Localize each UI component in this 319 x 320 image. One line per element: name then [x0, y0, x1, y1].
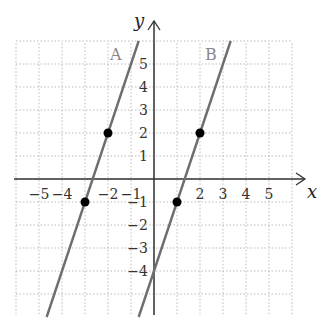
y-tick-label: −3: [127, 240, 148, 256]
line-a-label: A: [109, 45, 122, 64]
x-tick-label: 2: [196, 186, 205, 202]
x-tick-label: −5: [29, 186, 50, 202]
data-point: [196, 129, 205, 138]
tick-labels: −5−4−2−1234554321−1−2−3−4: [29, 56, 274, 279]
y-tick-label: −1: [127, 194, 148, 210]
coordinate-plane: −5−4−2−1234554321−1−2−3−4 x y A B: [0, 0, 319, 320]
x-tick-label: −2: [98, 186, 119, 202]
data-point: [81, 198, 90, 207]
line-b-label: B: [205, 45, 217, 64]
y-tick-label: 2: [139, 125, 148, 141]
x-axis-label: x: [307, 181, 317, 202]
y-tick-label: 4: [139, 79, 148, 95]
data-point: [173, 198, 182, 207]
data-point: [104, 129, 113, 138]
y-tick-label: 5: [139, 56, 148, 72]
y-tick-label: −2: [127, 217, 148, 233]
x-tick-label: 3: [219, 186, 228, 202]
x-tick-label: 5: [265, 186, 274, 202]
y-tick-label: 1: [139, 148, 148, 164]
y-tick-label: −4: [127, 263, 148, 279]
y-tick-label: 3: [139, 102, 148, 118]
y-axis-label: y: [133, 10, 145, 31]
x-tick-label: 4: [242, 186, 251, 202]
x-tick-label: −4: [52, 186, 73, 202]
